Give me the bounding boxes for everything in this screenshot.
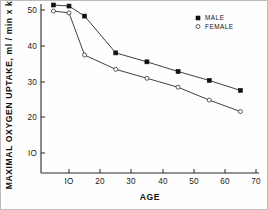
- x-tick-label-20: 20: [95, 177, 105, 186]
- y-tick-label-10: IO: [28, 149, 37, 158]
- y-axis-tick-labels: 50 40 30 20 IO: [27, 6, 37, 158]
- data-point-female-10: [67, 11, 71, 15]
- data-point-male-65: [238, 88, 242, 92]
- legend-female-label: FEMALE: [205, 23, 234, 30]
- legend-male-marker-icon: [196, 16, 200, 20]
- data-point-female-5: [51, 9, 55, 13]
- x-tick-label-60: 60: [220, 177, 230, 186]
- y-axis-title: MAXIMAL OXYGEN UPTAKE, ml / min x kg: [4, 0, 14, 189]
- y-axis-ticks: [41, 10, 45, 153]
- data-point-female-35: [145, 76, 149, 80]
- data-point-male-5: [51, 3, 55, 7]
- y-tick-label-20: 20: [27, 113, 37, 122]
- data-point-female-55: [207, 98, 211, 102]
- chart-legend: MALE FEMALE: [196, 14, 234, 30]
- oxygen-uptake-line-chart: 50 40 30 20 IO IO 20 30 40 50 60 70 AGE: [0, 0, 268, 210]
- data-point-male-55: [207, 78, 211, 82]
- x-axis-title: AGE: [140, 192, 160, 202]
- y-tick-label-30: 30: [27, 78, 37, 87]
- data-point-male-25: [114, 51, 118, 55]
- y-tick-label-50: 50: [27, 6, 37, 15]
- data-point-male-15: [83, 14, 87, 18]
- data-point-male-45: [176, 69, 180, 73]
- data-point-female-65: [238, 110, 242, 114]
- y-tick-label-40: 40: [27, 42, 37, 51]
- data-point-male-10: [67, 4, 71, 8]
- x-tick-label-40: 40: [158, 177, 168, 186]
- x-axis-tick-labels: IO 20 30 40 50 60 70: [64, 177, 261, 186]
- x-tick-label-10: IO: [64, 177, 73, 186]
- chart-figure: 50 40 30 20 IO IO 20 30 40 50 60 70 AGE: [0, 0, 268, 210]
- legend-male-label: MALE: [205, 14, 224, 21]
- x-axis-ticks: [69, 169, 256, 173]
- x-tick-label-70: 70: [251, 177, 261, 186]
- legend-female-marker-icon: [196, 25, 200, 29]
- data-point-male-35: [145, 60, 149, 64]
- data-point-female-45: [176, 85, 180, 89]
- x-tick-label-30: 30: [126, 177, 136, 186]
- x-tick-label-50: 50: [189, 177, 199, 186]
- data-point-female-25: [114, 67, 118, 71]
- data-point-female-15: [83, 53, 87, 57]
